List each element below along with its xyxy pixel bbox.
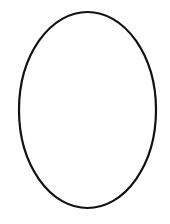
diagram-canvas xyxy=(0,0,170,224)
ellipse-shape xyxy=(19,12,156,208)
